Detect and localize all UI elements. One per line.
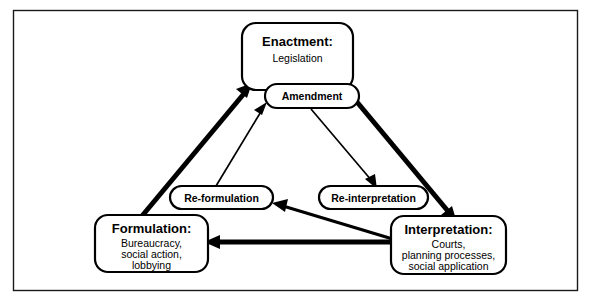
arrowhead-reformulation-from-interpretation (272, 199, 288, 212)
node-formulation-subtitle-line-3: lobbying (132, 259, 171, 271)
node-interpretation-subtitle-line-3: social application (409, 260, 489, 272)
policy-cycle-diagram: Enactment: Legislation Amendment Re-form… (0, 0, 591, 302)
node-reformulation[interactable]: Re-formulation (170, 186, 273, 209)
diagram-canvas: Enactment: Legislation Amendment Re-form… (0, 0, 591, 302)
edge-interpretation-to-formulation (204, 235, 392, 249)
node-interpretation-title: Interpretation: (404, 222, 492, 237)
edge-amendment-to-reinterpretation (311, 109, 377, 189)
node-reinterpretation[interactable]: Re-interpretation (319, 186, 428, 209)
node-formulation[interactable]: Formulation: Bureaucracy, social action,… (95, 215, 208, 272)
node-enactment[interactable]: Enactment: Legislation (242, 23, 353, 90)
node-interpretation[interactable]: Interpretation: Courts, planning process… (391, 216, 506, 274)
node-reformulation-label: Re-formulation (184, 192, 259, 204)
node-amendment-label: Amendment (282, 90, 343, 102)
node-enactment-title: Enactment: (262, 34, 333, 49)
arrowhead-amendment-from-reformulation (254, 102, 267, 115)
node-reinterpretation-label: Re-interpretation (331, 192, 416, 204)
node-amendment[interactable]: Amendment (265, 84, 359, 108)
node-enactment-subtitle-line-1: Legislation (272, 52, 322, 64)
node-formulation-title: Formulation: (112, 221, 191, 236)
